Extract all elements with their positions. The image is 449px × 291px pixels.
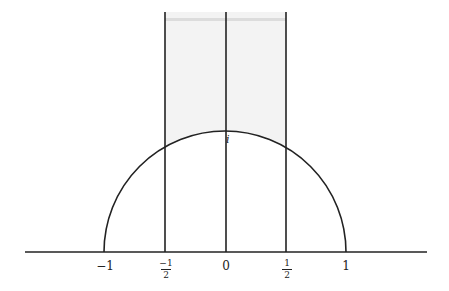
tick-label-minus-half: −1 2 — [156, 259, 176, 280]
tick-label-half: 1 2 — [277, 259, 297, 280]
fraction-denominator: 2 — [163, 271, 169, 280]
fraction-denominator: 2 — [284, 271, 290, 280]
diagram-canvas — [0, 0, 449, 291]
disc-interior — [104, 131, 346, 252]
tick-label-one: 1 — [336, 259, 356, 273]
point-label-i: i — [226, 133, 230, 146]
fraction-numerator: −1 — [159, 259, 172, 268]
tick-label-zero: 0 — [216, 259, 236, 273]
tick-label-minus-one: −1 — [94, 259, 116, 273]
fraction-numerator: 1 — [284, 259, 290, 268]
